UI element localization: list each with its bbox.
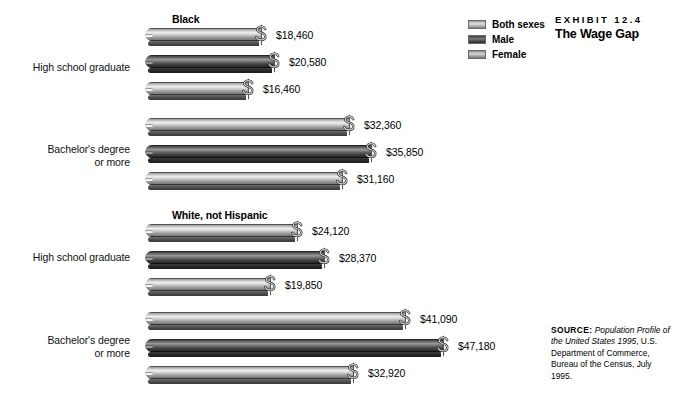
bar-cylinder [145,224,298,237]
bar-cap-notch [145,88,153,91]
category-label-line-2: or more [0,156,130,169]
bar-cap-notch [145,318,153,321]
legend-label-female: Female [492,49,526,60]
exhibit-title: The Wage Gap [555,27,642,41]
bar-cylinder [145,28,262,41]
bar-edge-top [145,278,271,279]
exhibit-number: EXHIBIT 12.4 [555,14,642,25]
bar-cap-notch [145,61,153,64]
bar-edge-top [145,312,406,313]
source-label: SOURCE: [551,325,592,335]
category-label-bachelors-black: Bachelor's degree or more [0,143,130,168]
bar-value-label: $19,850 [285,279,322,291]
bar-cylinder [145,312,406,325]
bar-value-label: $16,460 [263,83,300,95]
bar-edge-top [145,28,262,29]
bar-edge-top [145,145,372,146]
bar-shadow [148,379,351,384]
category-label-line-1: Bachelor's degree [0,143,130,156]
exhibit-header: EXHIBIT 12.4 The Wage Gap [555,14,642,41]
source-note: SOURCE: Population Profile of the United… [551,325,673,382]
bar-shadow [148,237,295,242]
bar-value-label: $20,580 [289,56,326,68]
bar-value-label: $28,370 [339,252,376,264]
bar-cap-notch [145,151,153,154]
legend: Both sexes Male Female [468,18,545,63]
bar-value-label: $32,920 [368,367,405,379]
bar-cap-notch [145,230,153,233]
bar-value-label: $47,180 [458,340,495,352]
bar-edge-top [145,82,249,83]
bar-shadow [148,325,403,330]
bar-cylinder [145,339,444,352]
bar-shadow [148,264,322,269]
chart-canvas: Black White, not Hispanic High school gr… [0,0,675,397]
bar-shadow [148,352,441,357]
bar-shadow [148,41,259,46]
bar-shadow [148,291,268,296]
legend-label-male: Male [492,34,514,45]
bar-cylinder [145,82,249,95]
legend-item-male: Male [468,33,545,45]
bar-shadow [148,95,246,100]
legend-swatch-both-sexes [468,20,486,29]
legend-item-female: Female [468,48,545,60]
bar-cylinder [145,366,354,379]
bar-edge-top [145,118,350,119]
bar-value-label: $32,360 [364,119,401,131]
bar-shadow [148,158,369,163]
bar-edge-top [145,251,325,252]
category-label-line-1: Bachelor's degree [0,334,130,347]
bar-cap-notch [145,284,153,287]
bar-cylinder [145,278,271,291]
bar-cap-notch [145,372,153,375]
bar-cap-notch [145,124,153,127]
bar-cap-notch [145,345,153,348]
bar-edge-top [145,366,354,367]
bar-cap-notch [145,257,153,260]
legend-swatch-female [468,50,486,59]
category-label-high-school-black: High school graduate [0,61,130,74]
category-label-line-2: or more [0,347,130,360]
bar-value-label: $35,850 [386,146,423,158]
bar-cylinder [145,55,275,68]
bar-shadow [148,131,347,136]
bar-edge-top [145,339,444,340]
bar-cylinder [145,251,325,264]
bar-value-label: $41,090 [420,313,457,325]
category-label-bachelors-white: Bachelor's degree or more [0,334,130,359]
bar-cylinder [145,145,372,158]
bar-shadow [148,68,272,73]
bar-cap-notch [145,178,153,181]
group-heading-black: Black [172,13,200,25]
bar-edge-top [145,172,343,173]
bar-cylinder [145,172,343,185]
bar-edge-top [145,224,298,225]
category-label-high-school-white: High school graduate [0,251,130,264]
bar-edge-top [145,55,275,56]
legend-item-both-sexes: Both sexes [468,18,545,30]
legend-swatch-male [468,35,486,44]
bar-shadow [148,185,340,190]
bar-value-label: $31,160 [357,173,394,185]
bar-cap-notch [145,34,153,37]
bar-value-label: $18,460 [276,29,313,41]
group-heading-white-not-hispanic: White, not Hispanic [172,209,268,221]
bar-cylinder [145,118,350,131]
bar-value-label: $24,120 [312,225,349,237]
legend-label-both-sexes: Both sexes [492,19,545,30]
